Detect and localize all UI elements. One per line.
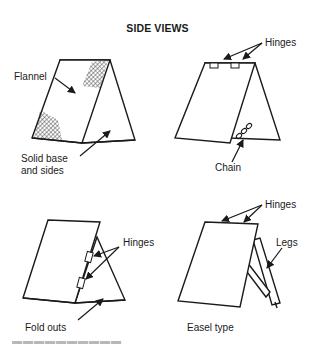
- hinges-arrow-1: [224, 43, 262, 59]
- label-flannel: Flannel: [14, 71, 47, 83]
- hinges-arrow-2: [243, 43, 262, 59]
- cut-off-caption: ▬▬▬▬▬▬▬▬▬▬: [12, 341, 192, 346]
- label-solid-base: Solid base: [21, 153, 68, 165]
- label-easel-type: Easel type: [187, 322, 234, 334]
- foldout-board-drawing: [23, 220, 125, 303]
- label-and-sides: and sides: [21, 165, 64, 177]
- label-hinges-foldouts: Hinges: [123, 237, 154, 249]
- label-hinges-top: Hinges: [265, 37, 296, 49]
- label-fold-outs: Fold outs: [25, 322, 66, 334]
- easel-hinges-arrow-1: [222, 205, 262, 221]
- easel-hinges-arrow-2: [244, 205, 262, 222]
- chain-arrow: [232, 140, 243, 162]
- label-chain: Chain: [215, 162, 241, 174]
- legs-arrow: [267, 248, 282, 268]
- label-legs: Legs: [276, 237, 298, 249]
- easel-board-drawing: [178, 222, 280, 308]
- label-hinges-easel: Hinges: [265, 199, 296, 211]
- chain-board-drawing: [175, 63, 280, 143]
- solid-board-drawing: [32, 60, 135, 143]
